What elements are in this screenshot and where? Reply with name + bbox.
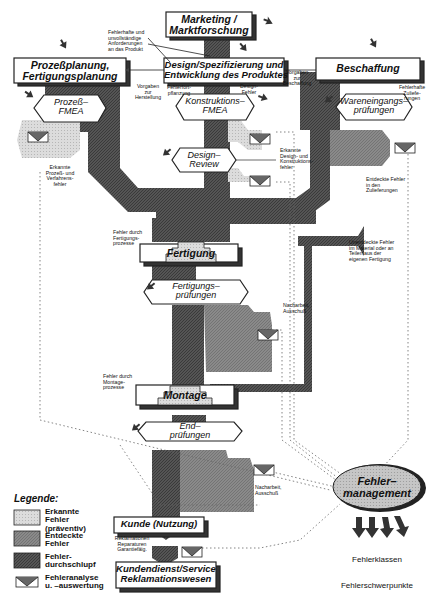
- legend-item-slip: Fehler- durchschlupf: [45, 553, 96, 570]
- box-design: Design/Spezifizierung und Entwicklung de…: [164, 60, 284, 80]
- note-nacharbeit-1: Nacharbeit, Ausschuß: [283, 303, 310, 314]
- check-endpruefungen: End– prüfungen: [142, 422, 238, 441]
- note-unentdeckte-material: Unentdeckte Fehler im Material oder an T…: [349, 240, 394, 263]
- note-erkannte-prozess: Erkannte Prozeß- und Verfahrens- fehler: [40, 165, 80, 188]
- note-vorgaben-beschaffung: Vorgaben zur Beschaffung: [280, 70, 314, 87]
- box-fertigung: Fertigung: [166, 248, 216, 259]
- check-design-review: Design– Review: [176, 151, 232, 170]
- note-fehlerhafte-anforderungen: Fehlerhafte und unvollständige Anforderu…: [108, 30, 144, 53]
- box-prozessplanung: Prozeßplanung, Fertigungsplanung: [14, 60, 126, 82]
- check-prozess-fmea: Prozeß– FMEA: [40, 98, 102, 117]
- legend-swatch-detected: [14, 531, 40, 546]
- note-fehlerhafte-zulieferungen: Fehlerhafte Zuliefe- rungen: [396, 85, 428, 102]
- legend-envelope-icon: [16, 577, 38, 587]
- legend-item-detected: Entdeckte Fehler: [45, 532, 83, 549]
- note-nacharbeit-2: Nacharbeit, Ausschuß: [255, 485, 282, 496]
- output-arrows: [352, 516, 409, 538]
- box-beschaffung: Beschaffung: [316, 63, 420, 74]
- fehlermanagement-outputs: Fehlerklassen Fehlerschwerpunkte Fehleru…: [322, 538, 432, 598]
- legend-swatches: [14, 510, 40, 587]
- fehlermanagement-title: Fehler– management: [333, 475, 421, 499]
- check-fertigungspruefungen: Fertigungs– prüfungen: [148, 282, 244, 301]
- note-erkannte-design: Erkannte Design- und Konstruktions- fehl…: [280, 148, 313, 171]
- legend-swatch-slip: [14, 553, 40, 568]
- note-fehler-montage: Fehler durch Montage- prozesse: [103, 374, 132, 391]
- output-item: Fehlerschwerpunkte: [322, 582, 432, 591]
- box-kundendienst: Kundendienst/Service Reklamationswesen: [116, 564, 216, 584]
- box-kunde: Kunde (Nutzung): [114, 519, 204, 529]
- box-montage: Montage: [158, 390, 212, 401]
- legend-item-analysis: Fehleranalyse u. –auswertung: [45, 574, 104, 591]
- legend-title: Legende:: [14, 494, 58, 505]
- check-konstruktions-fmea: Konstruktions– FMEA: [180, 97, 250, 116]
- note-fehlerfortpflanzung: Fehlerfort- pflanzung: [164, 85, 194, 96]
- legend-item-recognized: Erkannte Fehler (präventiv): [45, 508, 86, 533]
- box-marketing: Marketing / Marktforschung: [166, 14, 252, 36]
- note-design-fehler: Design- Fehler: [236, 84, 262, 95]
- note-fehler-fertigung: Fehler durch Fertigungs- prozesse: [113, 230, 142, 247]
- output-item: Fehlerklassen: [322, 556, 432, 565]
- note-reklamationen: Reklamationen Reparaturen Garantiefäig.: [112, 536, 152, 553]
- legend-swatch-recognized: [14, 510, 40, 525]
- note-vorgaben-herstellung: Vorgaben zur Herstellung: [132, 84, 164, 101]
- note-entdeckte-zulieferungen: Entdeckte Fehler in den Zulieferungen: [366, 177, 405, 194]
